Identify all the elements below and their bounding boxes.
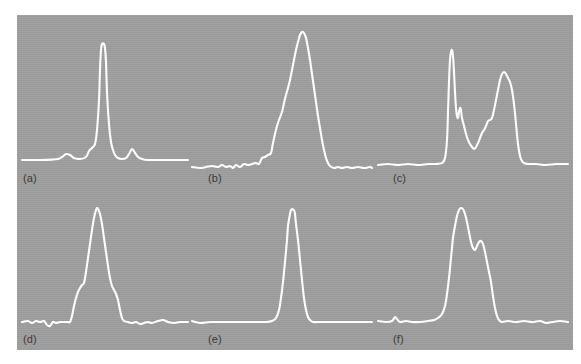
trace-a: [22, 43, 188, 160]
panel-label-b: (b): [208, 172, 222, 184]
panel-label-c: (c): [393, 172, 406, 184]
trace-d: [22, 208, 188, 326]
trace-e: [192, 209, 372, 323]
panel-label-d: (d): [23, 333, 37, 345]
trace-layer: [17, 15, 573, 350]
figure-root: (a) (b) (c) (d) (e) (f): [0, 0, 581, 364]
panel-label-e: (e): [208, 333, 222, 345]
panel-label-f: (f): [393, 333, 404, 345]
figure-plate: (a) (b) (c) (d) (e) (f): [17, 15, 573, 350]
trace-c: [378, 50, 568, 165]
trace-f: [378, 208, 568, 323]
panel-label-a: (a): [23, 172, 37, 184]
trace-b: [192, 32, 372, 168]
